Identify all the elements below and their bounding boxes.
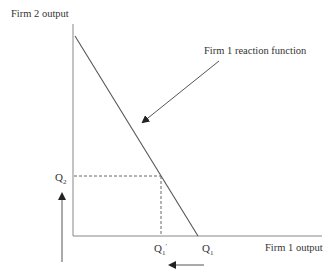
y-axis-label: Firm 2 output: [11, 8, 69, 19]
reaction-function-label: Firm 1 reaction function: [204, 45, 307, 56]
q1-prime-label: Q1′: [154, 242, 167, 257]
reaction-function-diagram: Firm 2 output Firm 1 output Firm 1 react…: [0, 0, 332, 276]
reaction-function-line: [75, 36, 198, 236]
q2-label: Q2: [55, 171, 67, 186]
q1-label: Q1: [202, 242, 214, 257]
x-axis-label: Firm 1 output: [265, 242, 323, 253]
reaction-pointer-arrow: [143, 61, 219, 122]
